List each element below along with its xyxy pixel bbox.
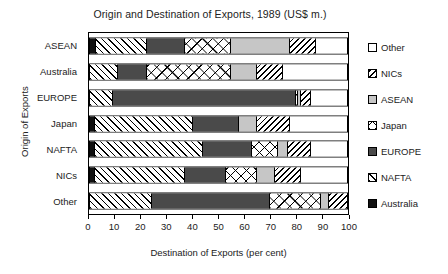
y-tick-label-asean: ASEAN	[0, 32, 84, 58]
y-axis-tick-labels: ASEANAustraliaEUROPEJapanNAFTANICsOther	[0, 32, 84, 215]
bar-row-other	[89, 188, 348, 214]
x-tick-label-0: 0	[85, 221, 90, 232]
x-tick-mark	[114, 215, 115, 219]
bar-segment-europe[interactable]	[203, 142, 252, 157]
legend-swatch-nafta	[368, 173, 377, 182]
x-tick-mark	[88, 215, 89, 219]
bar-segment-nics[interactable]	[257, 116, 290, 131]
bar-segment-nics[interactable]	[275, 168, 301, 183]
plot-area	[88, 32, 349, 215]
bar-segment-japan[interactable]	[270, 194, 321, 209]
bar-segment-nics[interactable]	[257, 64, 283, 79]
legend-item-japan[interactable]: Japan	[368, 112, 448, 138]
bar-segment-asean[interactable]	[239, 116, 257, 131]
x-tick-label-70: 70	[265, 221, 276, 232]
bar-segment-nafta[interactable]	[95, 168, 185, 183]
bar-segment-asean[interactable]	[231, 64, 257, 79]
bar-segment-japan[interactable]	[252, 142, 278, 157]
stacked-bar[interactable]	[89, 89, 348, 106]
bar-segment-nafta[interactable]	[95, 116, 193, 131]
x-tick-mark	[218, 215, 219, 219]
x-tick-label-80: 80	[292, 221, 303, 232]
bar-segment-other[interactable]	[311, 142, 347, 157]
x-tick-mark	[166, 215, 167, 219]
bar-segment-europe[interactable]	[147, 38, 186, 53]
bar-segment-europe[interactable]	[113, 90, 295, 105]
bar-segment-nafta[interactable]	[95, 142, 203, 157]
legend-item-europe[interactable]: EUROPE	[368, 138, 448, 164]
x-tick-label-50: 50	[213, 221, 224, 232]
x-tick-mark	[322, 215, 323, 219]
bar-segment-asean[interactable]	[231, 38, 290, 53]
stacked-bar[interactable]	[89, 115, 348, 132]
bar-segment-europe[interactable]	[152, 194, 270, 209]
legend-item-other[interactable]: Other	[368, 34, 448, 60]
x-tick-label-30: 30	[161, 221, 172, 232]
bar-segment-europe[interactable]	[118, 64, 146, 79]
bar-row-japan	[89, 111, 348, 137]
stacked-bar[interactable]	[89, 37, 348, 54]
bar-segment-nics[interactable]	[290, 38, 316, 53]
y-tick-label-other: Other	[0, 189, 84, 215]
y-tick-label-australia: Australia	[0, 58, 84, 84]
bar-segment-japan[interactable]	[147, 64, 232, 79]
bar-segment-nics[interactable]	[329, 194, 347, 209]
bar-segment-nafta[interactable]	[90, 90, 113, 105]
y-tick-label-nafta: NAFTA	[0, 137, 84, 163]
x-tick-mark	[192, 215, 193, 219]
bar-segment-nics[interactable]	[288, 142, 311, 157]
bar-segment-japan[interactable]	[185, 38, 231, 53]
x-tick-mark	[244, 215, 245, 219]
bar-segment-nafta[interactable]	[90, 64, 118, 79]
bar-segment-other[interactable]	[311, 90, 347, 105]
x-tick-mark	[140, 215, 141, 219]
chart-title: Origin and Destination of Exports, 1989 …	[0, 8, 420, 20]
y-tick-label-nics: NICs	[0, 163, 84, 189]
bar-segment-europe[interactable]	[193, 116, 239, 131]
bar-segment-asean[interactable]	[257, 168, 275, 183]
bar-row-australia	[89, 59, 348, 85]
legend-item-australia[interactable]: Australia	[368, 190, 448, 216]
legend-item-asean[interactable]: ASEAN	[368, 86, 448, 112]
legend-label: NAFTA	[381, 172, 411, 183]
bar-segment-asean[interactable]	[278, 142, 288, 157]
bar-segment-nafta[interactable]	[96, 38, 146, 53]
x-tick-mark	[349, 215, 350, 219]
legend-label: EUROPE	[381, 146, 421, 157]
bar-segment-other[interactable]	[316, 38, 347, 53]
x-tick-mark	[296, 215, 297, 219]
bar-segment-other[interactable]	[283, 64, 347, 79]
legend-label: Japan	[381, 120, 407, 131]
bar-row-europe	[89, 85, 348, 111]
legend-label: NICs	[381, 68, 402, 79]
stacked-bar[interactable]	[89, 193, 348, 210]
legend-label: ASEAN	[381, 94, 413, 105]
bar-segment-japan[interactable]	[226, 168, 257, 183]
x-axis-tick-labels: 0102030405060708090100	[88, 221, 349, 235]
x-axis-title: Destination of Exports (per cent)	[88, 247, 349, 258]
x-tick-label-40: 40	[187, 221, 198, 232]
stacked-bar[interactable]	[89, 167, 348, 184]
bar-row-nics	[89, 162, 348, 188]
y-tick-label-japan: Japan	[0, 110, 84, 136]
chart-legend: OtherNICsASEANJapanEUROPENAFTAAustralia	[368, 34, 448, 216]
x-tick-label-60: 60	[239, 221, 250, 232]
bar-segment-other[interactable]	[290, 116, 347, 131]
stacked-bar[interactable]	[89, 63, 348, 80]
bar-segment-asean[interactable]	[321, 194, 329, 209]
x-tick-label-10: 10	[109, 221, 120, 232]
bar-segment-europe[interactable]	[185, 168, 226, 183]
x-tick-label-100: 100	[341, 221, 357, 232]
legend-swatch-japan	[368, 121, 377, 130]
bar-segment-nics[interactable]	[301, 90, 311, 105]
stacked-bar[interactable]	[89, 141, 348, 158]
legend-swatch-australia	[368, 199, 377, 208]
legend-label: Other	[381, 42, 405, 53]
bar-row-asean	[89, 33, 348, 59]
bar-segment-other[interactable]	[301, 168, 347, 183]
legend-item-nafta[interactable]: NAFTA	[368, 164, 448, 190]
legend-swatch-nics	[368, 69, 377, 78]
legend-swatch-asean	[368, 95, 377, 104]
bar-segment-nafta[interactable]	[90, 194, 152, 209]
legend-item-nics[interactable]: NICs	[368, 60, 448, 86]
